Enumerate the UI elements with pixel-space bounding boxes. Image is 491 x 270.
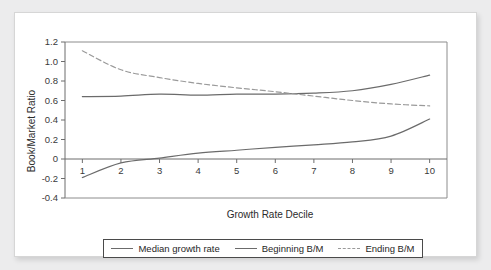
x-tick-label: 9 xyxy=(388,165,393,176)
y-axis-tick-labels: 1.21.00.80.60.40.20-0.2-0.4 xyxy=(42,36,58,203)
x-tick-label: 6 xyxy=(273,165,278,176)
legend-entry: Ending B/M xyxy=(336,243,416,254)
y-tick-label: 0 xyxy=(53,153,58,164)
y-tick-label: -0.4 xyxy=(42,192,58,203)
y-tick-label: -0.2 xyxy=(42,173,58,184)
legend-entry: Median growth rate xyxy=(109,243,221,254)
legend-label: Beginning B/M xyxy=(262,243,324,254)
legend-line-swatch xyxy=(338,248,360,249)
legend-entry: Beginning B/M xyxy=(233,243,326,254)
legend-line-swatch xyxy=(111,248,133,249)
x-tick-label: 10 xyxy=(424,165,435,176)
y-tick-label: 0.6 xyxy=(45,95,58,106)
series-line xyxy=(82,51,429,106)
legend-label: Ending B/M xyxy=(365,243,414,254)
y-tick-label: 1.0 xyxy=(45,56,58,67)
legend-label: Median growth rate xyxy=(138,243,219,254)
y-tick-label: 1.2 xyxy=(45,36,58,47)
x-axis-tick-labels: 12345678910 xyxy=(80,165,435,176)
y-tick-label: 0.8 xyxy=(45,75,58,86)
x-tick-label: 8 xyxy=(350,165,355,176)
x-tick-label: 2 xyxy=(118,165,123,176)
y-tick-label: 0.4 xyxy=(45,114,58,125)
line-chart: 1.21.00.80.60.40.20-0.2-0.4 12345678910 … xyxy=(15,13,478,258)
x-tick-label: 1 xyxy=(80,165,85,176)
y-axis-title: Book/Market Ratio xyxy=(26,89,37,172)
series-line xyxy=(82,75,429,96)
x-axis-title: Growth Rate Decile xyxy=(227,209,314,220)
y-tick-label: 0.2 xyxy=(45,134,58,145)
figure-card: 1.21.00.80.60.40.20-0.2-0.4 12345678910 … xyxy=(14,12,477,257)
y-axis-tick-marks xyxy=(61,42,65,198)
x-tick-label: 5 xyxy=(234,165,239,176)
chart-legend: Median growth rateBeginning B/MEnding B/… xyxy=(103,239,423,258)
series-line xyxy=(82,119,429,178)
legend-line-swatch xyxy=(235,248,257,249)
x-tick-label: 7 xyxy=(311,165,316,176)
x-tick-label: 4 xyxy=(195,165,200,176)
x-tick-label: 3 xyxy=(157,165,162,176)
plot-canvas: 1.21.00.80.60.40.20-0.2-0.4 12345678910 … xyxy=(15,13,478,258)
